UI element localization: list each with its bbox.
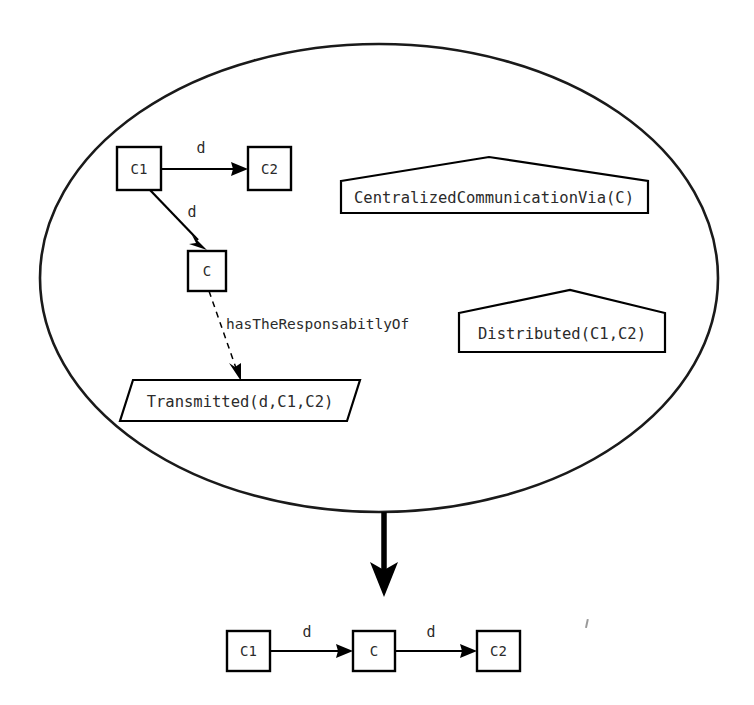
relation-has-responsibility: hasTheResponsabitlyOf <box>209 291 409 381</box>
source-edge-c1-to-c2-label: d <box>196 139 205 157</box>
transform-arrow <box>370 512 398 597</box>
source-node-c-label: C <box>203 263 211 279</box>
predicate-centralized: CentralizedCommunicationVia(C) <box>341 157 648 213</box>
source-node-c2: C2 <box>248 147 291 190</box>
result-node-c1: C1 <box>227 631 270 671</box>
source-edge-c1-to-c-label: d <box>187 203 196 221</box>
source-node-c2-label: C2 <box>261 161 278 177</box>
result-edge-c1-to-c-arrowhead <box>336 644 353 658</box>
predicate-distributed: Distributed(C1,C2) <box>459 290 665 352</box>
predicate-transmitted-label: Transmitted(d,C1,C2) <box>147 393 334 411</box>
source-edge-c1-to-c: d <box>150 190 207 250</box>
result-node-c-label: C <box>370 643 378 659</box>
result-node-c2: C2 <box>477 631 520 671</box>
result-edge-c1-to-c: d <box>270 623 353 659</box>
predicate-centralized-label: CentralizedCommunicationVia(C) <box>354 189 634 207</box>
result-edge-c1-to-c-label: d <box>302 623 311 641</box>
result-edge-c-to-c2: d <box>395 623 477 659</box>
source-node-c1-label: C1 <box>131 161 148 177</box>
source-node-c1: C1 <box>117 147 161 190</box>
predicate-distributed-label: Distributed(C1,C2) <box>478 325 646 343</box>
diagram-canvas: C1 C2 C d d hasTheResponsabitlyOf <box>0 0 754 705</box>
relation-has-responsibility-label: hasTheResponsabitlyOf <box>226 316 409 332</box>
result-node-c: C <box>353 631 395 671</box>
result-edge-c-to-c2-arrowhead <box>460 644 477 658</box>
source-edge-c1-to-c-arrowhead <box>189 235 207 250</box>
source-node-c: C <box>188 251 226 291</box>
result-node-c1-label: C1 <box>240 643 257 659</box>
predicate-distributed-shape <box>459 290 665 352</box>
source-edge-c1-to-c2-arrowhead <box>231 162 248 176</box>
scan-artifact-mark <box>585 619 589 628</box>
source-edge-c1-to-c2: d <box>161 139 248 177</box>
predicate-transmitted: Transmitted(d,C1,C2) <box>120 380 360 421</box>
pattern-context-ellipse <box>40 44 718 512</box>
result-edge-c-to-c2-label: d <box>426 623 435 641</box>
diagram-root: C1 C2 C d d hasTheResponsabitlyOf <box>0 0 754 705</box>
result-node-c2-label: C2 <box>490 643 507 659</box>
